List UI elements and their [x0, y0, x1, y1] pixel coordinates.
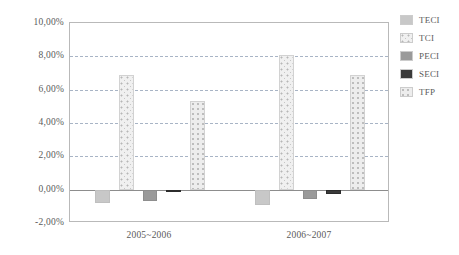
gridline — [70, 156, 388, 157]
legend-item-tfp[interactable]: TFP — [400, 84, 459, 100]
legend-item-peci[interactable]: PECI — [400, 48, 459, 64]
bar-peci-2 — [303, 190, 318, 199]
x-axis-tick-label: 2005~2006 — [89, 230, 209, 240]
gridline — [70, 56, 388, 57]
legend-item-seci[interactable]: SECI — [400, 66, 459, 82]
legend-swatch-icon — [400, 15, 413, 25]
legend-item-teci[interactable]: TECI — [400, 12, 459, 28]
bar-teci-1 — [95, 190, 110, 203]
plot-area — [69, 22, 389, 222]
x-axis-tick-label: 2006~2007 — [249, 230, 369, 240]
bar-tci-2 — [279, 55, 294, 190]
legend-item-tci[interactable]: TCI — [400, 30, 459, 46]
bar-seci-1 — [166, 190, 181, 193]
bar-teci-2 — [255, 190, 270, 205]
y-axis-tick-label: 10,00% — [2, 17, 64, 27]
bar-seci-2 — [326, 190, 341, 194]
legend-item-label: PECI — [419, 51, 439, 61]
bar-tfp-1 — [190, 101, 205, 190]
bar-peci-1 — [143, 190, 158, 202]
gridline — [70, 123, 388, 124]
legend-swatch-icon — [400, 87, 413, 97]
y-axis-tick-label: 0,00% — [2, 184, 64, 194]
legend-swatch-icon — [400, 69, 413, 79]
legend-item-label: TECI — [419, 15, 440, 25]
y-axis-tick-label: 8,00% — [2, 50, 64, 60]
chart-legend: TECITCIPECISECITFP — [400, 12, 459, 102]
legend-item-label: TFP — [419, 87, 435, 97]
bar-tci-1 — [119, 75, 134, 190]
legend-swatch-icon — [400, 51, 413, 61]
bar-tfp-2 — [350, 75, 365, 190]
legend-item-label: SECI — [419, 69, 439, 79]
y-axis-tick-label: 4,00% — [2, 117, 64, 127]
gridline — [70, 90, 388, 91]
y-axis-tick-label: 2,00% — [2, 150, 64, 160]
y-axis-tick-label: -2,00% — [2, 217, 64, 227]
legend-swatch-icon — [400, 33, 413, 43]
legend-item-label: TCI — [419, 33, 434, 43]
y-axis-tick-label: 6,00% — [2, 84, 64, 94]
chart-figure: 10,00%8,00%6,00%4,00%2,00%0,00%-2,00% 20… — [0, 0, 459, 255]
